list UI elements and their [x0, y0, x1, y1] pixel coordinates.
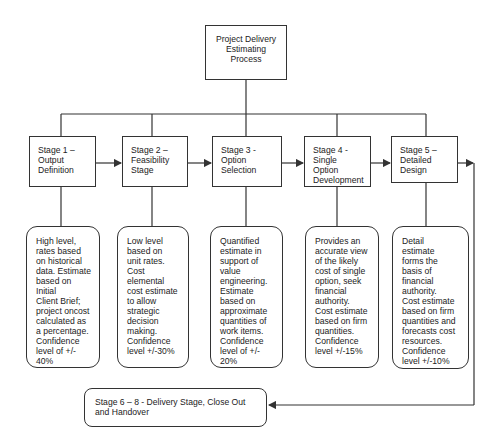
- stage-4-description: Provides an accurate view of the likely …: [305, 226, 379, 368]
- stage-5-label: Stage 5 – Detailed Design: [400, 145, 451, 175]
- stage-1-description-text: High level, rates based on historical da…: [36, 236, 93, 366]
- stage-4-description-text: Provides an accurate view of the likely …: [315, 236, 372, 356]
- stage-3-node: Stage 3 - Option Selection: [212, 136, 282, 187]
- stage-3-description: Quantified estimate in support of value …: [210, 226, 283, 368]
- final-stage-label: Stage 6 – 8 - Delivery Stage, Close Out …: [95, 397, 260, 417]
- stage-5-description-text: Detail estimate forms the basis of finan…: [402, 236, 462, 366]
- stage-5-node: Stage 5 – Detailed Design: [391, 136, 458, 183]
- stage-1-label: Stage 1 – Output Definition: [38, 145, 89, 175]
- stage-4-node: Stage 4 - Single Option Development: [304, 136, 371, 187]
- stage-5-description: Detail estimate forms the basis of finan…: [392, 226, 469, 369]
- stage-1-node: Stage 1 – Output Definition: [29, 136, 96, 187]
- stage-4-label: Stage 4 - Single Option Development: [313, 145, 364, 185]
- final-stage-node: Stage 6 – 8 - Delivery Stage, Close Out …: [84, 388, 267, 427]
- root-node: Project Delivery Estimating Process: [205, 25, 287, 80]
- root-label: Project Delivery Estimating Process: [210, 34, 282, 64]
- stage-2-node: Stage 2 – Feasibility Stage: [122, 136, 188, 187]
- stage-2-label: Stage 2 – Feasibility Stage: [131, 145, 181, 175]
- stage-1-description: High level, rates based on historical da…: [26, 226, 100, 368]
- stage-2-description-text: Low level based on unit rates. Cost elem…: [127, 236, 182, 356]
- stage-3-description-text: Quantified estimate in support of value …: [220, 236, 276, 366]
- stage-3-label: Stage 3 - Option Selection: [221, 145, 275, 175]
- stage-2-description: Low level based on unit rates. Cost elem…: [117, 226, 189, 368]
